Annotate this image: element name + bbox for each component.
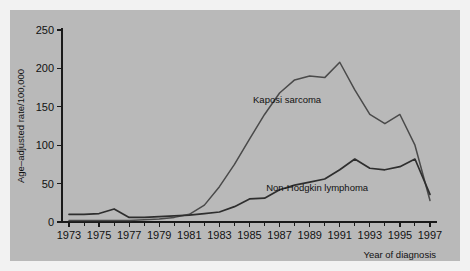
- x-tick-label: 1983: [207, 229, 231, 241]
- series-label-non-hodgkin-lymphoma: Non-Hodgkin lymphoma: [266, 182, 369, 193]
- x-tick-label: 1991: [328, 229, 352, 241]
- chart-svg: 0501001502002501973197519771979198119831…: [0, 0, 470, 271]
- x-tick-label: 1979: [147, 229, 171, 241]
- series-label-kaposi-sarcoma: Kaposi sarcoma: [253, 94, 322, 105]
- x-tick-label: 1987: [267, 229, 291, 241]
- x-tick-label: 1993: [358, 229, 382, 241]
- y-tick-label: 100: [36, 139, 54, 151]
- x-tick-label: 1997: [418, 229, 442, 241]
- y-tick-label: 50: [42, 178, 54, 190]
- x-tick-label: 1975: [87, 229, 111, 241]
- x-tick-label: 1973: [57, 229, 81, 241]
- x-tick-label: 1989: [297, 229, 321, 241]
- y-tick-label: 150: [36, 101, 54, 113]
- x-tick-label: 1981: [177, 229, 201, 241]
- x-tick-label: 1995: [388, 229, 412, 241]
- y-tick-label: 250: [36, 24, 54, 36]
- y-tick-label: 200: [36, 62, 54, 74]
- x-tick-label: 1985: [237, 229, 261, 241]
- series-line-non-hodgkin-lymphoma: [69, 159, 430, 217]
- x-tick-label: 1977: [117, 229, 141, 241]
- series-line-kaposi-sarcoma: [69, 62, 430, 220]
- y-axis-title: Age–adjusted rate/100,000: [15, 69, 26, 183]
- x-axis-title: Year of diagnosis: [363, 249, 436, 260]
- y-tick-label: 0: [48, 216, 54, 228]
- figure-container: 0501001502002501973197519771979198119831…: [0, 0, 470, 271]
